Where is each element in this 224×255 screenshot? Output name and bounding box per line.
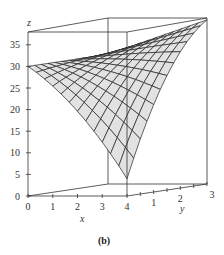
x-axis-label: x	[79, 213, 85, 224]
z-tick-label: 35	[10, 39, 20, 50]
surface-plot: 0510152025303501234123 z x y (b)	[0, 0, 224, 255]
z-tick-label: 15	[10, 126, 20, 137]
x-tick-label: 3	[100, 201, 105, 212]
z-tick-label: 20	[10, 104, 20, 115]
y-tick-label: 1	[151, 197, 156, 208]
z-tick-label: 0	[15, 191, 20, 202]
x-tick-label: 2	[75, 201, 80, 212]
left-bottom-edge	[28, 184, 108, 196]
z-tick-label: 5	[15, 169, 20, 180]
x-tick-label: 0	[26, 201, 31, 212]
figure-caption: (b)	[98, 235, 110, 247]
z-axis-label: z	[26, 17, 31, 28]
top-left-edge	[28, 18, 108, 32]
z-tick-label: 30	[10, 61, 20, 72]
z-tick-label: 10	[10, 147, 20, 158]
x-tick-label: 1	[50, 201, 55, 212]
z-tick-label: 25	[10, 83, 20, 94]
y-tick-label: 3	[210, 189, 215, 200]
x-tick-label: 4	[125, 201, 130, 212]
y-axis-label: y	[179, 203, 185, 214]
surface-mesh	[28, 20, 207, 179]
